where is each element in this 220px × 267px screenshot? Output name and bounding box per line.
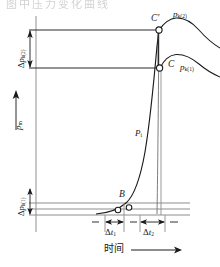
- y-axis-label: pm: [14, 121, 24, 130]
- delta-pk1-label: Δpk(1): [17, 198, 27, 217]
- curve-label-pk2: pk(2): [173, 10, 187, 20]
- x-axis-label: 时间: [104, 244, 124, 254]
- pressure-time-figure: 图中压力变化曲线: [0, 0, 220, 267]
- point-label-c: C: [168, 60, 174, 70]
- delta-pk2-label: Δpk(2): [17, 50, 27, 69]
- point-marker-b-right: [126, 205, 132, 211]
- curve-label-pi: Pi: [135, 129, 142, 139]
- curve-pk1-rise: [157, 68, 159, 214]
- point-marker-b-left: [115, 207, 121, 213]
- point-marker-cprime: [156, 27, 162, 33]
- delta-t1-label: Δt1: [105, 228, 116, 238]
- point-marker-c: [157, 65, 163, 71]
- curve-pk2-decay: [159, 18, 220, 48]
- curve-label-pk1: pk(1): [180, 63, 194, 73]
- delta-t2-label: Δt2: [143, 228, 154, 238]
- point-label-b: B: [119, 190, 125, 200]
- curve-pi-rising: [96, 30, 159, 214]
- point-label-cprime: C′: [151, 14, 159, 24]
